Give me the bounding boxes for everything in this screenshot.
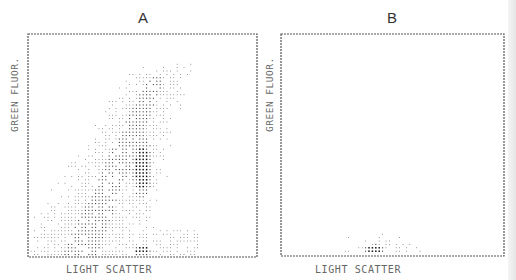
data-point bbox=[163, 105, 164, 106]
data-point bbox=[81, 227, 82, 228]
data-point bbox=[194, 234, 195, 235]
data-point bbox=[177, 64, 178, 65]
data-point bbox=[136, 91, 137, 92]
data-point bbox=[167, 247, 168, 248]
data-point bbox=[92, 234, 93, 235]
data-point bbox=[143, 101, 144, 102]
data-point bbox=[105, 251, 106, 252]
data-point bbox=[129, 135, 130, 136]
data-point bbox=[146, 84, 147, 85]
data-point bbox=[129, 145, 130, 146]
data-point bbox=[119, 227, 120, 228]
data-point bbox=[177, 230, 178, 231]
data-point bbox=[122, 254, 123, 255]
data-point bbox=[187, 247, 188, 248]
data-point bbox=[115, 169, 116, 170]
data-point bbox=[122, 118, 123, 119]
data-point bbox=[122, 224, 123, 225]
data-point bbox=[167, 176, 168, 177]
data-point bbox=[51, 254, 52, 255]
data-point bbox=[146, 165, 148, 167]
data-point bbox=[126, 169, 127, 170]
data-point bbox=[143, 121, 144, 122]
data-point bbox=[126, 159, 127, 160]
data-point bbox=[156, 145, 157, 146]
data-point bbox=[82, 166, 83, 167]
data-point bbox=[177, 241, 178, 242]
panel-b-plot bbox=[281, 34, 504, 256]
data-point bbox=[75, 190, 76, 191]
data-point bbox=[156, 169, 157, 170]
data-point bbox=[37, 237, 38, 238]
data-point bbox=[146, 108, 147, 109]
data-point bbox=[146, 244, 147, 245]
data-point bbox=[163, 247, 164, 248]
data-point bbox=[102, 200, 103, 201]
data-point bbox=[146, 135, 147, 136]
data-point bbox=[143, 132, 144, 133]
data-point bbox=[132, 132, 133, 133]
data-point bbox=[143, 237, 144, 238]
data-point bbox=[143, 203, 144, 204]
data-point bbox=[116, 224, 117, 225]
data-point bbox=[102, 241, 103, 242]
data-point bbox=[375, 247, 377, 249]
data-point bbox=[184, 234, 185, 235]
data-point bbox=[65, 207, 66, 208]
data-point bbox=[146, 138, 147, 139]
data-point bbox=[136, 169, 138, 171]
data-point bbox=[71, 162, 72, 163]
data-point bbox=[142, 179, 144, 181]
data-point bbox=[184, 254, 185, 255]
data-point bbox=[78, 244, 79, 245]
data-point bbox=[78, 176, 79, 177]
data-point bbox=[58, 183, 59, 184]
data-point bbox=[105, 149, 106, 150]
data-point bbox=[109, 172, 110, 173]
data-point bbox=[156, 71, 157, 72]
data-point bbox=[139, 254, 140, 255]
data-point bbox=[167, 101, 168, 102]
data-point bbox=[149, 98, 150, 99]
data-point bbox=[105, 203, 106, 204]
data-point bbox=[153, 156, 154, 157]
data-point bbox=[177, 71, 178, 72]
data-point bbox=[109, 234, 110, 235]
data-point bbox=[139, 217, 140, 218]
data-point bbox=[187, 230, 188, 231]
data-point bbox=[146, 87, 147, 88]
data-point bbox=[75, 240, 76, 241]
data-point bbox=[143, 200, 144, 201]
data-point bbox=[132, 155, 133, 156]
data-point bbox=[167, 71, 168, 72]
data-point bbox=[95, 152, 96, 153]
data-point bbox=[132, 159, 133, 160]
data-point bbox=[139, 210, 140, 211]
data-point bbox=[85, 190, 86, 191]
data-point bbox=[92, 237, 93, 238]
data-point bbox=[109, 206, 110, 207]
data-point bbox=[153, 227, 154, 228]
data-point bbox=[116, 227, 117, 228]
data-point bbox=[112, 128, 113, 129]
data-point bbox=[149, 251, 150, 252]
data-point bbox=[180, 241, 181, 242]
data-point bbox=[88, 210, 89, 211]
data-point bbox=[197, 241, 198, 242]
data-point bbox=[372, 244, 373, 245]
data-point bbox=[75, 213, 76, 214]
data-point bbox=[119, 142, 120, 143]
data-point bbox=[177, 91, 178, 92]
data-point bbox=[143, 234, 144, 235]
data-point bbox=[98, 220, 99, 221]
data-point bbox=[173, 98, 174, 99]
data-point bbox=[109, 169, 110, 170]
data-point bbox=[58, 234, 59, 235]
data-point bbox=[78, 220, 79, 221]
data-point bbox=[78, 190, 79, 191]
data-point bbox=[75, 207, 76, 208]
data-point bbox=[41, 237, 42, 238]
data-point bbox=[109, 196, 110, 197]
data-point bbox=[409, 244, 410, 245]
data-point bbox=[126, 81, 127, 82]
